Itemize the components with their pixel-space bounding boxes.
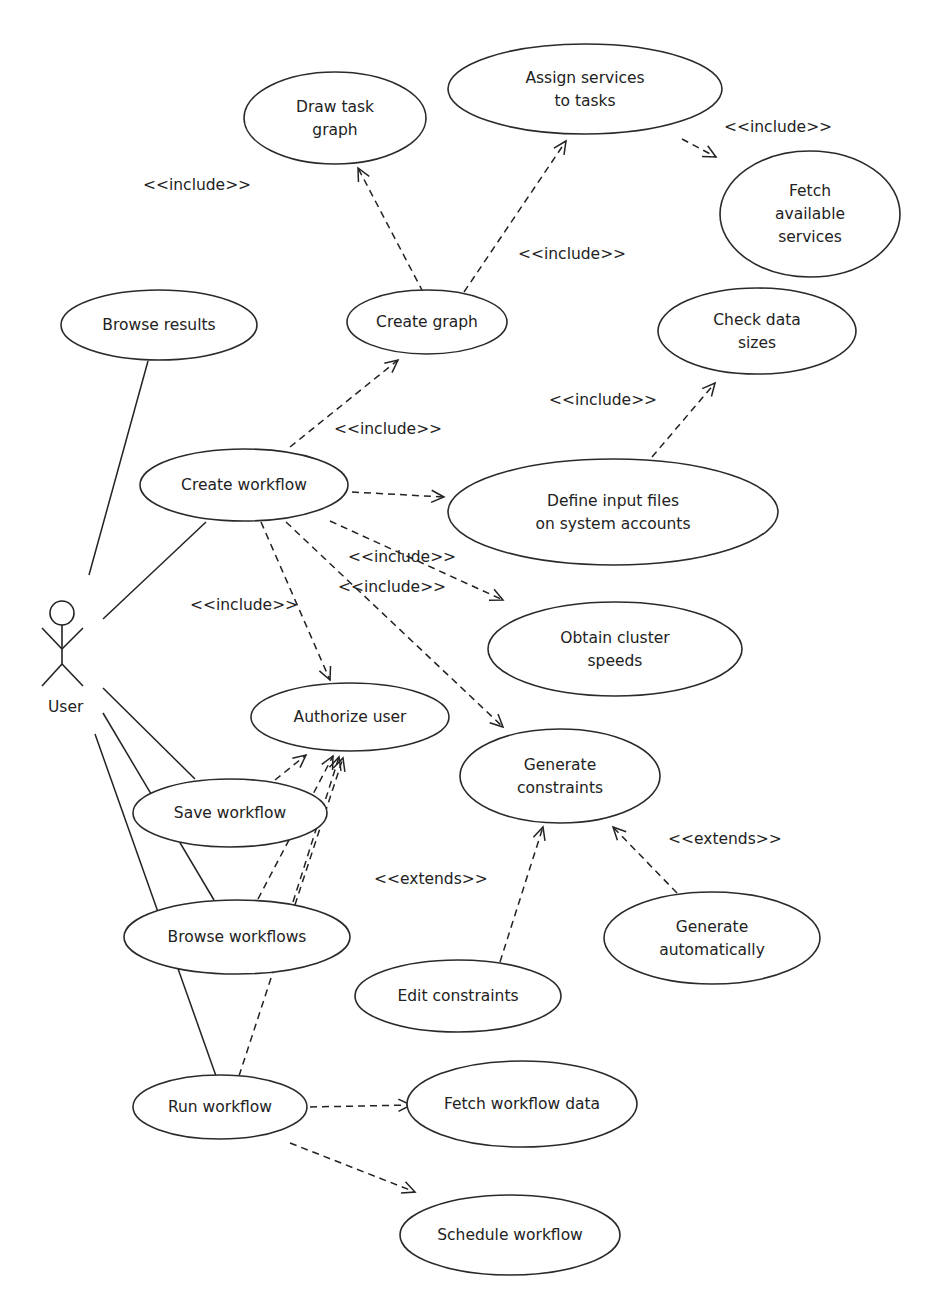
include-arrow-create_graph-to-draw_task_graph[interactable]: [358, 168, 423, 292]
use-case-browse-workflows[interactable]: Browse workflows: [124, 900, 350, 974]
include-arrow-run_workflow-to-schedule_workflow[interactable]: [290, 1143, 415, 1193]
use-case-label: Authorize user: [294, 708, 408, 726]
use-case-label: Browse workflows: [168, 928, 307, 946]
use-case-edit-constraints[interactable]: Edit constraints: [355, 960, 561, 1032]
open-arrowhead-icon: [489, 589, 503, 600]
use-case-check-data-sizes[interactable]: Check datasizes: [658, 288, 856, 374]
use-case-ellipse: [448, 459, 778, 565]
use-case-assign-services[interactable]: Assign servicesto tasks: [448, 44, 722, 134]
use-case-diagram: Draw taskgraphAssign servicesto tasksFet…: [0, 0, 933, 1310]
use-case-label: Assign services: [525, 69, 644, 87]
use-case-fetch-services[interactable]: Fetchavailableservices: [720, 151, 900, 277]
use-case-label: Create graph: [376, 313, 478, 331]
use-case-generate-constraints[interactable]: Generateconstraints: [460, 729, 660, 823]
use-case-label: services: [778, 228, 842, 246]
stereotype-label: <<extends>>: [374, 870, 488, 888]
use-case-ellipse: [604, 892, 820, 984]
use-case-create-graph[interactable]: Create graph: [347, 290, 507, 354]
open-arrowhead-icon: [554, 141, 566, 155]
use-case-generate-automatically[interactable]: Generateautomatically: [604, 892, 820, 984]
use-case-ellipse: [448, 44, 722, 134]
use-case-ellipse: [658, 288, 856, 374]
stereotype-label: <<include>>: [190, 596, 298, 614]
include-arrow-create_graph-to-assign_services[interactable]: [464, 141, 566, 292]
use-case-label: to tasks: [554, 92, 615, 110]
use-case-label: Fetch workflow data: [444, 1095, 600, 1113]
stick-figure-icon: [42, 601, 83, 686]
use-case-draw-task-graph[interactable]: Draw taskgraph: [244, 72, 426, 164]
use-case-schedule-workflow[interactable]: Schedule workflow: [400, 1195, 620, 1275]
association-save_workflow[interactable]: [103, 688, 195, 779]
open-arrowhead-icon: [533, 827, 545, 841]
use-case-define-input-files[interactable]: Define input fileson system accounts: [448, 459, 778, 565]
stereotype-label: <<include>>: [334, 420, 442, 438]
extends-arrow-edit_constraints-to-generate_constraints[interactable]: [500, 827, 545, 962]
use-case-label: Save workflow: [174, 804, 287, 822]
stereotype-label: <<include>>: [143, 176, 251, 194]
use-case-label: available: [775, 205, 845, 223]
use-case-run-workflow[interactable]: Run workflow: [133, 1075, 307, 1139]
use-case-label: constraints: [517, 779, 603, 797]
stereotype-label: <<include>>: [518, 245, 626, 263]
include-arrow-create_workflow-to-define_input_files[interactable]: [352, 490, 444, 502]
use-case-fetch-workflow-data[interactable]: Fetch workflow data: [407, 1061, 637, 1147]
use-case-obtain-cluster-speeds[interactable]: Obtain clusterspeeds: [488, 602, 742, 696]
use-case-ellipse: [488, 602, 742, 696]
use-case-label: Generate: [524, 756, 596, 774]
include-arrow-define_input_files-to-check_data_sizes[interactable]: [652, 383, 715, 457]
use-case-label: Draw task: [296, 98, 374, 116]
use-case-label: automatically: [659, 941, 765, 959]
use-cases: Draw taskgraphAssign servicesto tasksFet…: [61, 44, 900, 1275]
use-case-label: sizes: [738, 334, 776, 352]
stereotype-label: <<include>>: [348, 548, 456, 566]
use-case-authorize-user[interactable]: Authorize user: [251, 683, 449, 751]
include-arrow-assign_services-to-fetch_services[interactable]: [682, 139, 716, 157]
use-case-label: graph: [312, 121, 357, 139]
stereotype-label: <<include>>: [338, 578, 446, 596]
stereotype-label: <<include>>: [549, 391, 657, 409]
use-case-ellipse: [244, 72, 426, 164]
include-arrow-run_workflow-to-fetch_workflow_data[interactable]: [310, 1099, 411, 1111]
actor-label: User: [48, 698, 84, 716]
association-browse_results[interactable]: [89, 361, 148, 575]
use-case-label: Schedule workflow: [437, 1226, 583, 1244]
stereotype-label: <<include>>: [724, 118, 832, 136]
use-case-label: Check data: [713, 311, 801, 329]
use-case-label: Fetch: [789, 182, 831, 200]
user-actor[interactable]: User: [42, 601, 84, 716]
use-case-label: Generate: [676, 918, 748, 936]
use-case-label: Define input files: [547, 492, 679, 510]
use-case-label: on system accounts: [535, 515, 690, 533]
use-case-save-workflow[interactable]: Save workflow: [133, 779, 327, 847]
use-case-label: Edit constraints: [397, 987, 518, 1005]
use-case-browse-results[interactable]: Browse results: [61, 290, 257, 360]
use-case-label: Browse results: [102, 316, 215, 334]
include-arrow-save_workflow-to-authorize_user[interactable]: [275, 755, 306, 780]
use-case-ellipse: [460, 729, 660, 823]
use-case-label: Create workflow: [181, 476, 307, 494]
use-case-label: speeds: [588, 652, 643, 670]
use-case-create-workflow[interactable]: Create workflow: [140, 449, 348, 521]
use-case-label: Run workflow: [168, 1098, 272, 1116]
stereotype-label: <<extends>>: [668, 830, 782, 848]
use-case-label: Obtain cluster: [560, 629, 670, 647]
